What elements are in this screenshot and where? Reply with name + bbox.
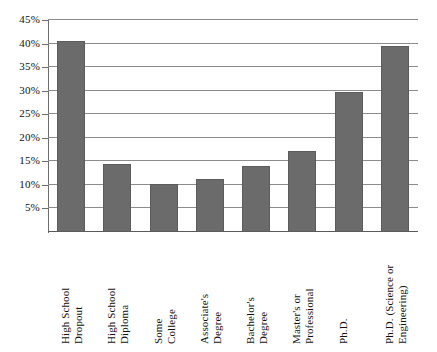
x-axis-category-label: Ph.D. — [337, 236, 363, 348]
gridline — [48, 43, 418, 44]
bar — [103, 164, 131, 232]
category-label-line: Associate's — [198, 294, 211, 344]
y-axis-tick-mark — [42, 67, 48, 68]
category-label-line: Ph.D. (Science or — [383, 265, 396, 344]
bar — [242, 166, 270, 232]
category-label-line: Dropout — [72, 288, 85, 344]
plot-area — [48, 20, 418, 232]
x-axis-category-label: SomeCollege — [152, 236, 187, 348]
y-axis-tick-mark — [42, 91, 48, 92]
y-axis-tick-mark — [42, 185, 48, 186]
bar — [150, 184, 178, 232]
bar — [57, 41, 85, 232]
y-axis-tick-label: 5% — [4, 202, 40, 213]
y-axis-tick-label: 35% — [4, 61, 40, 72]
y-axis-tick-label: 25% — [4, 108, 40, 119]
category-label-line: Degree — [210, 294, 223, 344]
category-label-line: High School — [105, 288, 118, 344]
category-label-line: College — [164, 309, 177, 344]
category-label-line: Engineering) — [395, 265, 408, 344]
bar-chart: 5%10%15%20%25%30%35%40%45% High SchoolDr… — [0, 0, 437, 352]
y-axis-tick-mark — [42, 114, 48, 115]
category-label-line: Diploma — [118, 288, 131, 344]
y-axis-tick-label: 45% — [4, 14, 40, 25]
category-label-line: Bachelor's — [244, 297, 257, 344]
y-axis-tick-label: 10% — [4, 179, 40, 190]
category-label-line: Degree — [257, 297, 270, 344]
y-axis-tick-labels: 5%10%15%20%25%30%35%40%45% — [0, 0, 40, 352]
bar — [196, 179, 224, 232]
x-axis-category-labels: High SchoolDropoutHigh SchoolDiplomaSome… — [48, 236, 418, 352]
x-axis-category-label: Associate'sDegree — [198, 236, 248, 348]
category-label-line: Professional — [303, 288, 316, 344]
bar — [381, 46, 409, 232]
y-axis-tick-label: 30% — [4, 85, 40, 96]
y-axis-tick-mark — [42, 44, 48, 45]
y-axis-tick-mark — [42, 20, 48, 21]
category-label-line: Some — [152, 309, 165, 344]
gridline — [48, 90, 418, 91]
y-axis-tick-label: 40% — [4, 38, 40, 49]
bar — [335, 92, 363, 232]
x-axis-category-label: Bachelor'sDegree — [244, 236, 291, 348]
y-axis-tick-mark — [42, 161, 48, 162]
category-label-line: Ph.D. — [337, 318, 350, 344]
category-label-line: Master's or — [290, 288, 303, 344]
y-axis-tick-label: 15% — [4, 155, 40, 166]
x-axis-category-label: Ph.D. (Science orEngineering) — [383, 236, 437, 348]
gridline — [48, 19, 418, 20]
y-axis-tick-label: 20% — [4, 132, 40, 143]
y-axis-tick-mark — [42, 208, 48, 209]
category-label-line: High School — [59, 288, 72, 344]
y-axis-tick-mark — [42, 138, 48, 139]
bar — [288, 151, 316, 232]
gridline — [48, 66, 418, 67]
